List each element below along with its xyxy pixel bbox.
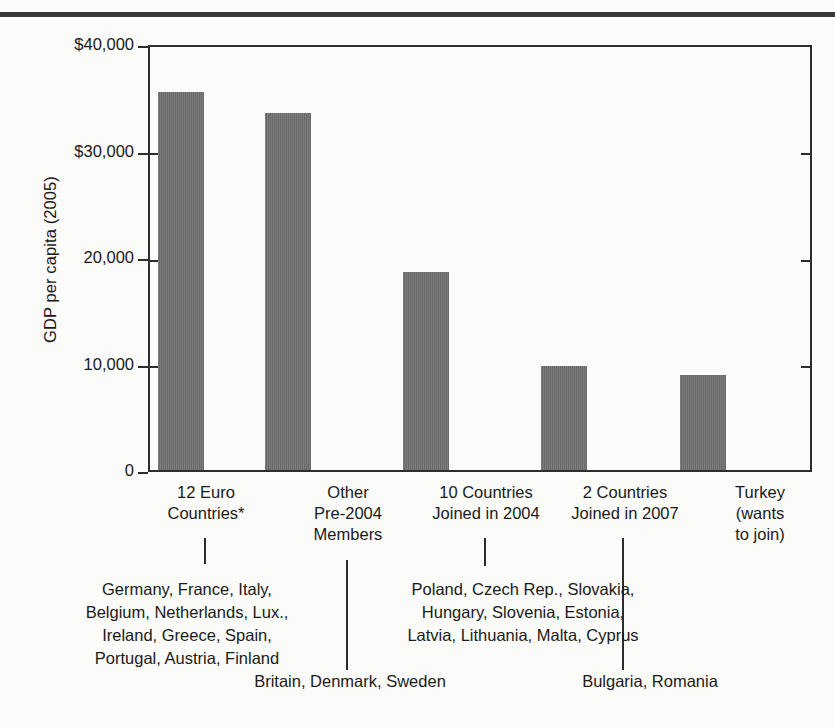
tick-mark — [138, 46, 148, 48]
inner-tick-right-30000 — [801, 153, 810, 155]
bar-joined-2004 — [403, 272, 449, 470]
bar-turkey — [680, 375, 726, 470]
y-tick-label: $30,000 — [74, 142, 134, 161]
note-euro-countries: Germany, France, Italy, Belgium, Netherl… — [22, 578, 352, 670]
connector-joined-2004 — [484, 538, 486, 566]
inner-tick-right-10000 — [801, 366, 810, 368]
y-tick-label: 0 — [125, 461, 134, 480]
tick-mark — [138, 259, 148, 261]
category-label-12-euro-countries: 12 Euro Countries* — [126, 482, 286, 524]
category-label-turkey: Turkey (wants to join) — [700, 482, 820, 545]
plot-area — [148, 45, 812, 472]
connector-12-euro-countries — [204, 538, 206, 564]
bar-chart-figure: GDP per capita (2005) $40,000 $30,000 20… — [0, 0, 835, 728]
y-tick-10000: 10,000 — [0, 366, 148, 367]
tick-mark — [138, 153, 148, 155]
y-tick-label: 10,000 — [84, 355, 134, 374]
bar-other-pre-2004 — [265, 113, 311, 470]
y-tick-40000: $40,000 — [0, 46, 148, 47]
y-tick-30000: $30,000 — [0, 153, 148, 154]
tick-mark — [138, 366, 148, 368]
category-label-joined-2007: 2 Countries Joined in 2007 — [535, 482, 715, 524]
note-joined-2004: Poland, Czech Rep., Slovakia, Hungary, S… — [358, 578, 688, 647]
bar-12-euro-countries — [158, 92, 204, 470]
note-other-pre-2004: Britain, Denmark, Sweden — [190, 670, 510, 693]
y-tick-0: 0 — [0, 472, 148, 473]
y-tick-label: $40,000 — [74, 35, 134, 54]
inner-tick-right-20000 — [801, 260, 810, 262]
y-tick-label: 20,000 — [84, 248, 134, 267]
y-tick-20000: 20,000 — [0, 259, 148, 260]
bar-joined-2007 — [541, 366, 587, 470]
tick-mark — [138, 472, 148, 474]
note-joined-2007: Bulgaria, Romania — [490, 670, 810, 693]
